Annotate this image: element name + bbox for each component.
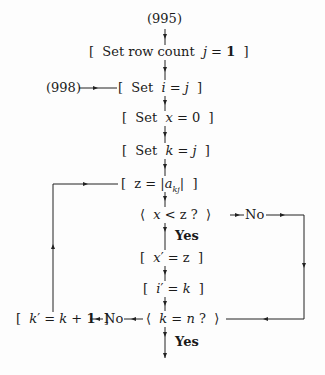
step-set-x: [ Set x = 0 ] (122, 111, 214, 125)
branch-yes-2: Yes (175, 335, 199, 349)
branch-no-1: No (245, 208, 264, 222)
step-set-k-prime: [ k′ = k + 1 ] (16, 312, 109, 326)
branch-no-2: No (104, 312, 123, 326)
reentry-label-998: (998) (46, 81, 81, 95)
step-set-x-prime: [ x′ = z ] (140, 251, 203, 265)
decision-x-less-than-z: ⟨ x < z ? ⟩ (140, 208, 211, 222)
step-set-row-count: [ Set row count j = 1 ] (89, 45, 249, 59)
step-set-i: [ Set i = j ] (118, 81, 202, 95)
entry-label-995: (995) (147, 12, 182, 26)
decision-k-equals-n: ⟨ k = n ? ⟩ (146, 312, 219, 326)
step-set-z: [ z = |akj| ] (121, 177, 198, 197)
step-set-k: [ Set k = j ] (122, 144, 210, 158)
branch-yes-1: Yes (175, 229, 199, 243)
step-set-i-prime: [ i′ = k ] (143, 282, 204, 296)
